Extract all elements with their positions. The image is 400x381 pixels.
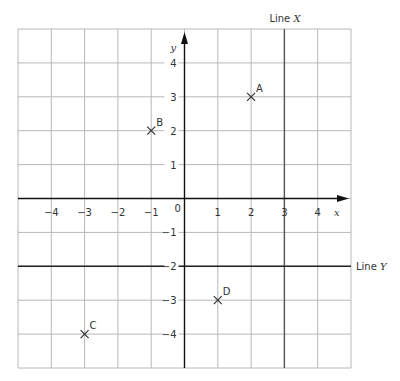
x-tick-label: 3 [281,207,287,218]
line-x-label: Line X [269,13,301,24]
y-axis-arrow-icon [181,32,188,44]
y-tick-label: −1 [162,227,177,238]
x-tick-label: 4 [315,207,321,218]
line-y-label: Line Y [356,261,388,272]
y-tick-label: −4 [162,329,177,340]
x-tick-label: −4 [44,207,59,218]
y-tick-label: 4 [170,58,176,69]
x-axis-label: x [334,207,340,218]
coordinate-grid-chart: Line XLine Yxy0−4−3−2−112344321−1−2−3−4A… [0,0,400,381]
point-label-c: C [90,320,97,331]
y-tick-label: −3 [162,295,177,306]
point-label-d: D [223,286,231,297]
x-tick-label: −2 [111,207,126,218]
x-tick-label: 2 [248,207,254,218]
x-tick-label: −1 [144,207,159,218]
y-tick-label: 1 [170,160,176,171]
y-tick-label: 3 [170,92,176,103]
y-axis-label: y [170,42,177,53]
point-label-a: A [256,83,263,94]
x-tick-label: −3 [77,207,92,218]
x-tick-label: 1 [215,207,221,218]
y-tick-label: 2 [170,126,176,137]
x-axis-arrow-icon [337,195,349,202]
y-tick-label: −2 [162,261,177,272]
origin-label: 0 [175,203,181,214]
point-label-b: B [156,117,163,128]
